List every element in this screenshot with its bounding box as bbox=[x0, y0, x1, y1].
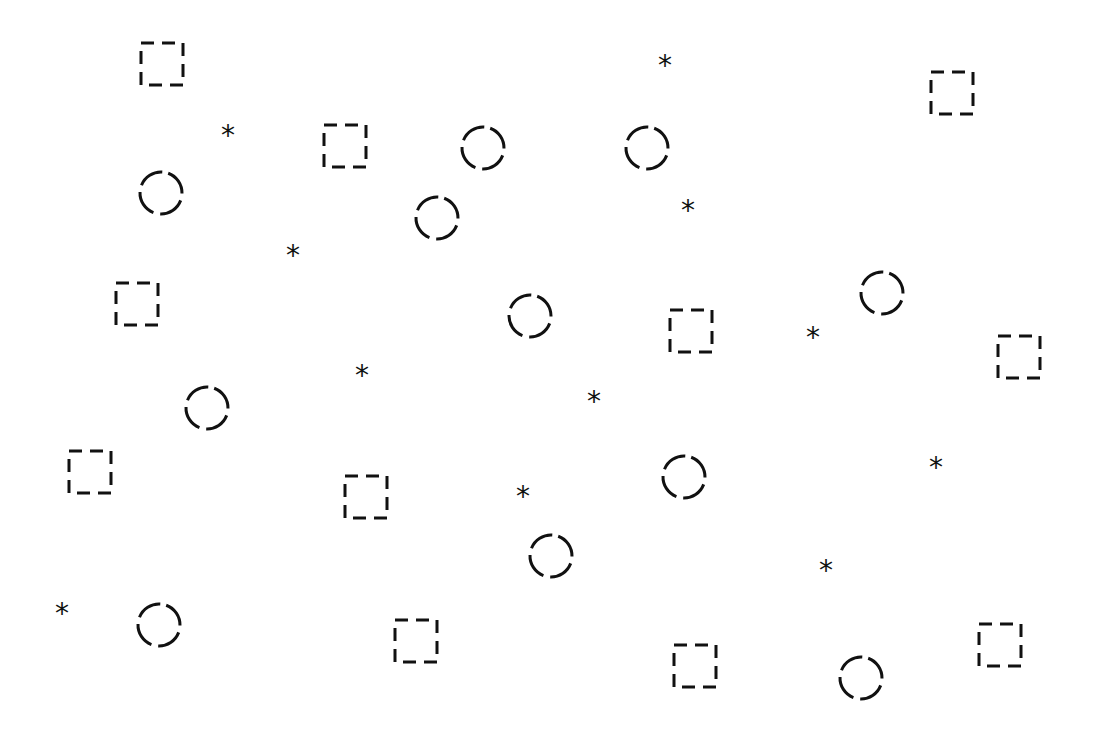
dashed-square bbox=[393, 618, 439, 664]
dashed-circle bbox=[137, 169, 185, 217]
dashed-square bbox=[114, 281, 160, 327]
dashed-square bbox=[343, 474, 389, 520]
dashed-circle bbox=[660, 453, 708, 501]
asterisk-icon: * bbox=[924, 454, 948, 482]
dashed-square bbox=[672, 643, 718, 689]
dashed-square bbox=[996, 334, 1042, 380]
asterisk-icon: * bbox=[511, 483, 535, 511]
dashed-circle bbox=[623, 124, 671, 172]
dashed-circle bbox=[413, 194, 461, 242]
asterisk-icon: * bbox=[350, 362, 374, 390]
dashed-square bbox=[977, 622, 1023, 668]
dashed-square bbox=[668, 308, 714, 354]
dashed-square bbox=[139, 41, 185, 87]
asterisk-icon: * bbox=[216, 122, 240, 150]
dashed-circle bbox=[183, 384, 231, 432]
dashed-circle bbox=[527, 532, 575, 580]
dashed-circle bbox=[837, 654, 885, 702]
asterisk-icon: * bbox=[50, 600, 74, 628]
dashed-circle bbox=[858, 269, 906, 317]
asterisk-icon: * bbox=[653, 52, 677, 80]
asterisk-icon: * bbox=[281, 242, 305, 270]
dashed-square bbox=[322, 123, 368, 169]
dashed-square bbox=[929, 70, 975, 116]
asterisk-icon: * bbox=[676, 197, 700, 225]
dashed-circle bbox=[506, 292, 554, 340]
shape-canvas: *********** bbox=[0, 0, 1098, 734]
asterisk-icon: * bbox=[801, 324, 825, 352]
dashed-square bbox=[67, 449, 113, 495]
asterisk-icon: * bbox=[814, 557, 838, 585]
dashed-circle bbox=[135, 601, 183, 649]
dashed-circle bbox=[459, 124, 507, 172]
asterisk-icon: * bbox=[582, 388, 606, 416]
